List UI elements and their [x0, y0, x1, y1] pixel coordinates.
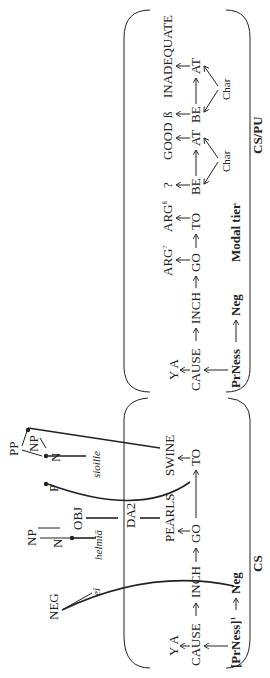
cspu-at-1: AT [188, 130, 203, 146]
syntax-obj: OBJ [70, 507, 85, 530]
cspu-label: CS/PU [250, 116, 265, 154]
modal-prness: PrNess [228, 349, 243, 388]
syntax-sioille: sioille [90, 451, 102, 478]
cspu-char-2: Char [220, 78, 232, 100]
syntax-pp: PP [6, 442, 21, 456]
syntax-np1: NP [24, 529, 39, 546]
modal-go: GO [188, 253, 203, 272]
cspu-q: ? [160, 182, 175, 188]
cs-cause: CAUSE [188, 623, 203, 666]
modal-to: TO [188, 213, 203, 230]
cs-panel: Y A CAUSE INCH GO TO [PrNess]1 Neg NEG e… [6, 398, 265, 668]
link-np-to-swine [28, 428, 160, 448]
modal-inch: INCH [188, 292, 203, 324]
cs-bracket-top [124, 420, 150, 668]
cs-go: GO [188, 524, 203, 543]
modal-arg2: ARGß [160, 201, 175, 232]
cs-to: TO [188, 449, 203, 466]
conceptual-structure-diagram: Y A CAUSE INCH GO TO [PrNess]1 Neg NEG e… [0, 0, 270, 678]
modal-tier-label: Modal tier [228, 203, 243, 262]
syntax-np2: NP [26, 435, 41, 452]
cs-ya: Y A [166, 635, 181, 656]
cs-pearls: PEARLS [162, 494, 177, 542]
cspu-beta: ß [160, 111, 175, 118]
cspu-good: GOOD [160, 122, 175, 160]
cspu-at-2: AT [188, 58, 203, 74]
cspu-inadequate: INADEQUATE [160, 15, 175, 98]
cs-neg: Neg [228, 572, 243, 594]
cs-swine: SWINE [162, 435, 177, 476]
syntax-n1: N [50, 538, 65, 548]
syntax-da2: DA2 [123, 503, 138, 528]
modal-ya: Y A [166, 359, 181, 380]
cspu-char-1: Char [220, 150, 232, 172]
cspu-be-2: BE [188, 106, 203, 123]
cs-prness: [PrNess]1 [228, 616, 243, 668]
modal-arg1: ARG? [160, 245, 175, 276]
syntax-helmia: helmiä [92, 530, 104, 560]
modal-cause: CAUSE [188, 348, 203, 391]
cs-inch: INCH [188, 566, 203, 598]
cs-label: CS [250, 555, 265, 572]
syntax-neg: NEG [46, 593, 61, 620]
modal-tier-panel: Y A CAUSE INCH GO TO ARG? ARGß PrNess Ne… [124, 201, 250, 392]
syntax-n2: N [48, 452, 63, 462]
cspu-be-1: BE [188, 178, 203, 195]
rotated-diagram: Y A CAUSE INCH GO TO [PrNess]1 Neg NEG e… [0, 0, 270, 678]
modal-neg: Neg [228, 294, 243, 316]
